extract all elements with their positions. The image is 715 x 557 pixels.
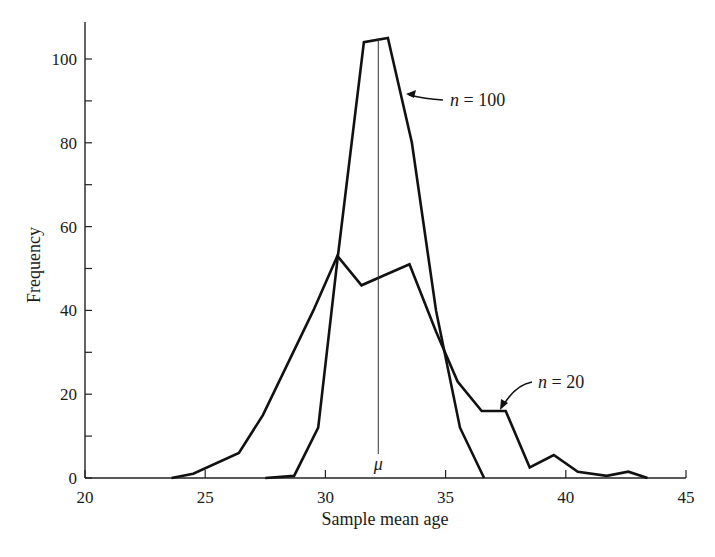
series-line-n20 (172, 256, 648, 478)
y-axis-label: Frequency (24, 227, 44, 303)
y-tick-label: 60 (60, 218, 77, 237)
y-tick-label: 0 (69, 469, 78, 488)
series-lines (172, 38, 648, 478)
y-tick-label: 40 (60, 301, 77, 320)
mu-label: μ (373, 454, 383, 474)
axes: 020406080100202530354045 (52, 22, 695, 507)
x-tick-label: 35 (437, 488, 454, 507)
n100-label: n = 100 (450, 90, 505, 110)
n20-label: n = 20 (538, 372, 584, 392)
x-tick-label: 20 (77, 488, 94, 507)
x-tick-label: 45 (678, 488, 695, 507)
x-axis-label: Sample mean age (322, 509, 449, 529)
x-tick-label: 40 (557, 488, 574, 507)
n20-arrow-icon (503, 382, 532, 406)
y-tick-label: 20 (60, 385, 77, 404)
y-tick-label: 80 (60, 134, 77, 153)
x-tick-label: 30 (317, 488, 334, 507)
x-tick-label: 25 (197, 488, 214, 507)
y-tick-label: 100 (52, 50, 78, 69)
frequency-polygon-chart: 020406080100202530354045 μn = 100n = 20 … (0, 0, 715, 557)
